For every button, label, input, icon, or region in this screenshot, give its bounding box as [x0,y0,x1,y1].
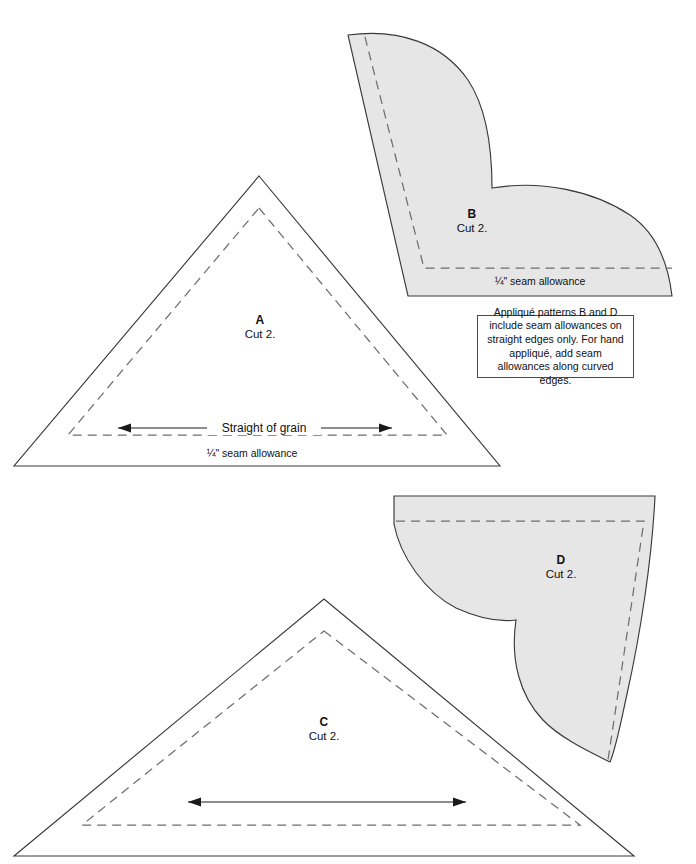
piece-b-cut-label: Cut 2. [442,222,502,236]
pattern-sheet: A Cut 2. Straight of grain ¼" seam allow… [0,0,696,864]
piece-c-cut-label: Cut 2. [294,730,354,744]
piece-a-cut-label: Cut 2. [230,328,290,342]
piece-d-letter: D [537,553,585,567]
piece-b-cut-outline [348,33,672,296]
piece-a-grainline-label: Straight of grain [207,421,321,435]
piece-c-grainline-arrow [188,797,466,806]
piece-c-letter: C [300,715,348,729]
piece-d-cut-label: Cut 2. [531,568,591,582]
piece-a-letter: A [236,313,284,327]
piece-d-cut-outline [394,496,655,762]
piece-a-seam-note: ¼" seam allowance [152,447,352,459]
applique-seam-allowance-note-box: Appliqué patterns B and D include seam a… [477,315,634,378]
piece-b-seam-note: ¼" seam allowance [440,275,640,287]
piece-b-letter: B [448,207,496,221]
applique-note-text: Appliqué patterns B and D include seam a… [478,306,633,387]
